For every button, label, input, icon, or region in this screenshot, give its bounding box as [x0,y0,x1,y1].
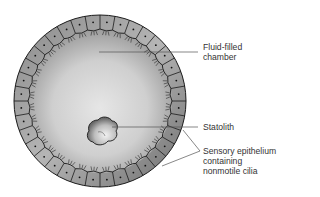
label-sensory-epithelium: Sensory epithelium containing nonmotile … [203,146,276,176]
label-line: containing [203,156,276,166]
label-line: Fluid-filled [203,42,242,52]
label-statolith: Statolith [203,122,234,132]
label-fluid-filled-chamber: Fluid-filled chamber [203,42,242,62]
label-line: Statolith [203,122,234,132]
label-line: chamber [203,52,242,62]
fluid-chamber [28,29,172,173]
label-line: Sensory epithelium [203,146,276,156]
epithelium-leader-line-upper [183,130,200,151]
label-line: nonmotile cilia [203,166,276,176]
